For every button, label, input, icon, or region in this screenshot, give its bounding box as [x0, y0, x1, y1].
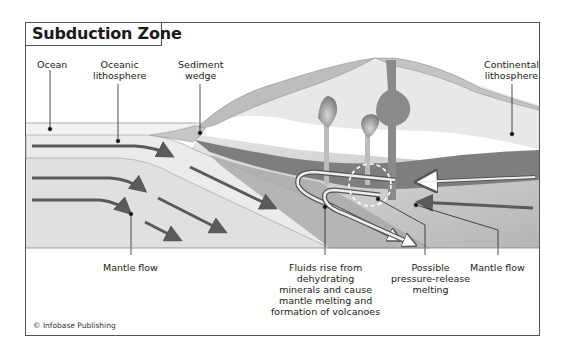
- label-line: Fluids rise from: [271, 262, 380, 273]
- label-fluids-rise: Fluids rise from dehydrating minerals an…: [271, 262, 380, 317]
- label-line: Possible: [391, 262, 470, 273]
- label-line: Ocean: [37, 59, 67, 70]
- label-line: lithosphere: [93, 70, 146, 81]
- label-mantle-flow-right: Mantle flow: [470, 262, 525, 273]
- copyright-credit: © Infobase Publishing: [33, 321, 116, 330]
- label-line: Mantle flow: [103, 262, 158, 273]
- label-line: mantle melting and: [271, 295, 380, 306]
- label-line: Continental: [484, 59, 539, 70]
- label-line: pressure-release: [391, 273, 470, 284]
- label-continental-lithosphere: Continental lithosphere: [484, 59, 539, 81]
- label-line: lithosphere: [484, 70, 539, 81]
- title-box: Subduction Zone: [25, 22, 162, 46]
- label-line: minerals and cause: [271, 284, 380, 295]
- label-oceanic-lithosphere: Oceanic lithosphere: [93, 59, 146, 81]
- label-line: Sediment: [178, 59, 223, 70]
- label-line: Mantle flow: [470, 262, 525, 273]
- label-pressure-release-melting: Possible pressure-release melting: [391, 262, 470, 295]
- label-line: melting: [391, 284, 470, 295]
- label-line: dehydrating: [271, 273, 380, 284]
- label-line: wedge: [178, 70, 223, 81]
- label-line: Oceanic: [93, 59, 146, 70]
- label-ocean: Ocean: [37, 59, 67, 70]
- label-line: formation of volcanoes: [271, 306, 380, 317]
- page-title: Subduction Zone: [32, 24, 182, 43]
- label-mantle-flow-left: Mantle flow: [103, 262, 158, 273]
- label-sediment-wedge: Sediment wedge: [178, 59, 223, 81]
